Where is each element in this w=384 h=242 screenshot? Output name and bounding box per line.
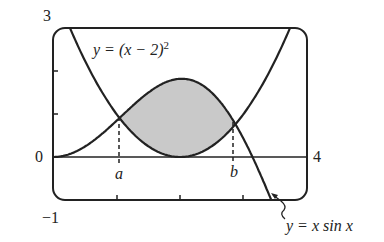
plot-canvas	[0, 0, 384, 242]
a-label: a	[115, 166, 123, 182]
parabola-label: y = (x − 2)2	[93, 40, 169, 58]
parabola-exponent: 2	[163, 39, 169, 51]
b-label: b	[230, 164, 238, 180]
x-zero-label: 0	[35, 149, 43, 165]
shaded-region	[120, 79, 236, 157]
parabola-equation: y = (x − 2)	[93, 41, 163, 58]
y-max-label: 3	[43, 8, 51, 24]
x-four-label: 4	[313, 149, 321, 165]
y-min-label: −1	[42, 210, 59, 226]
xsinx-label: y = x sin x	[286, 218, 353, 234]
